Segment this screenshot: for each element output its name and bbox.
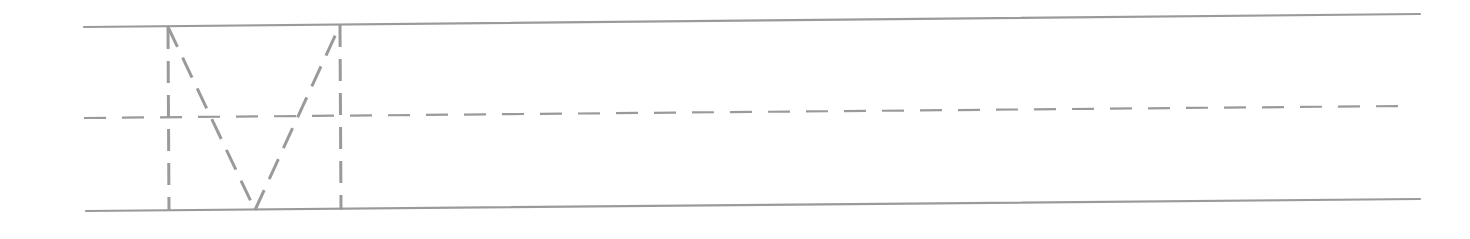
top-guide-line: [84, 14, 1420, 27]
left-diagonal-stroke: [168, 27, 255, 210]
midline-dashed-guide: [84, 106, 1402, 118]
left-stem-stroke: [168, 27, 169, 211]
letter-m-trace-glyph: [168, 25, 341, 211]
right-stem-stroke: [340, 25, 341, 210]
bottom-guide-line: [86, 199, 1420, 211]
handwriting-worksheet: [0, 0, 1470, 239]
right-diagonal-stroke: [255, 25, 340, 210]
